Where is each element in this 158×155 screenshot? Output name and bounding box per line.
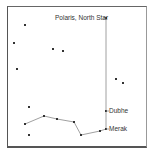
star-icon [122,82,124,84]
dipper-star-icon [56,118,58,120]
dipper-star-icon [24,123,26,125]
dipper-star-icon [43,115,45,117]
star-map [0,0,158,155]
star-icon [115,78,117,80]
dipper-star-icon [73,121,75,123]
star-icon [13,42,15,44]
star-icon [24,24,26,26]
star-icon [52,48,54,50]
dipper-star-icon [99,130,101,132]
dubhe-label: Dubhe [109,108,128,115]
star-icon [16,68,18,70]
polaris-label: Polaris, North Star [55,15,108,22]
merak-label: Merak [109,126,127,133]
star-icon [28,106,30,108]
dipper-star-icon [80,134,82,136]
star-icon [62,50,64,52]
dipper-line [25,116,106,135]
star-icon [28,134,30,136]
